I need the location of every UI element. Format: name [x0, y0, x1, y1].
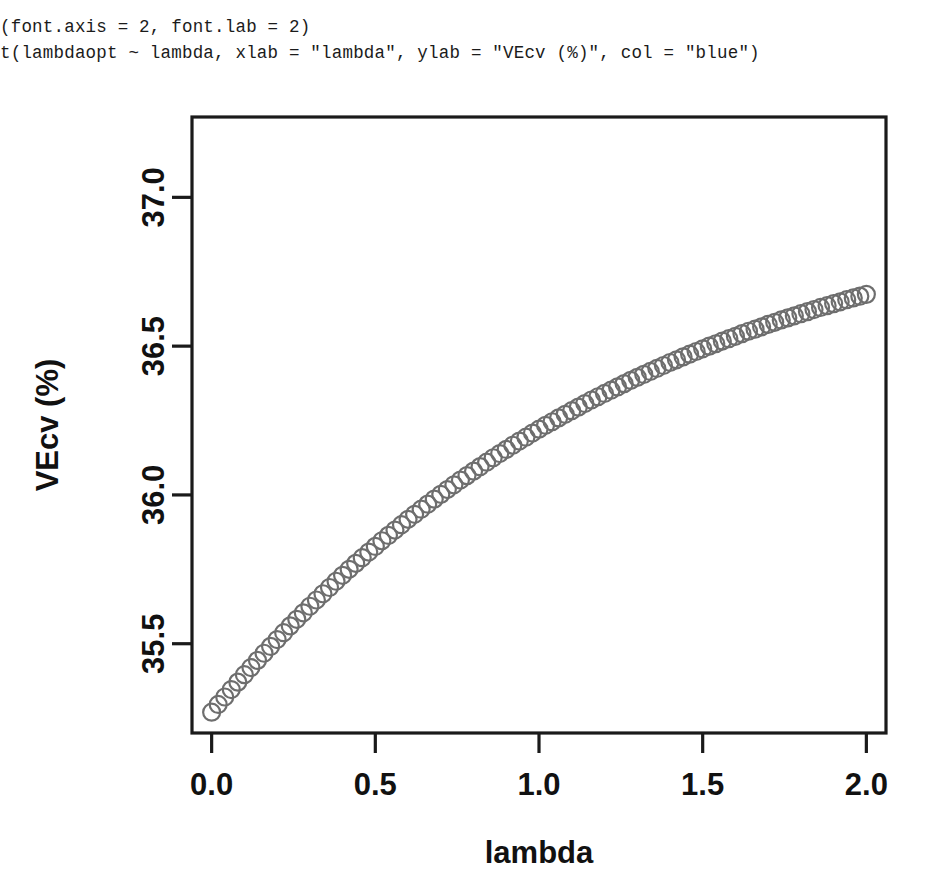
- data-points-group: [203, 286, 875, 721]
- x-tick-label: 0.0: [190, 767, 233, 802]
- console-line-1: (font.axis = 2, font.lab = 2): [0, 14, 939, 40]
- y-axis-ticks: 35.536.036.537.0: [137, 167, 193, 674]
- x-tick-label: 1.5: [681, 767, 724, 802]
- data-point: [242, 659, 259, 676]
- plot-canvas: 0.00.51.01.52.0 35.536.036.537.0 lambda …: [0, 78, 939, 892]
- y-axis-title: VEcv (%): [30, 359, 65, 492]
- r-console-output: (font.axis = 2, font.lab = 2) t(lambdaop…: [0, 14, 939, 66]
- x-axis-title: lambda: [485, 835, 594, 870]
- x-axis-ticks: 0.00.51.01.52.0: [190, 733, 888, 802]
- y-tick-label: 35.5: [137, 614, 172, 674]
- x-tick-label: 2.0: [845, 767, 888, 802]
- y-tick-label: 36.5: [137, 316, 172, 376]
- scatter-plot-figure: 0.00.51.01.52.0 35.536.036.537.0 lambda …: [0, 78, 939, 892]
- console-line-2: t(lambdaopt ~ lambda, xlab = "lambda", y…: [0, 40, 939, 66]
- x-tick-label: 0.5: [354, 767, 397, 802]
- axis-group: 0.00.51.01.52.0 35.536.036.537.0: [137, 117, 888, 802]
- x-tick-label: 1.0: [517, 767, 560, 802]
- y-tick-label: 36.0: [137, 465, 172, 525]
- y-tick-label: 37.0: [137, 167, 172, 227]
- data-point: [249, 652, 266, 669]
- plot-panel-border: [192, 117, 886, 733]
